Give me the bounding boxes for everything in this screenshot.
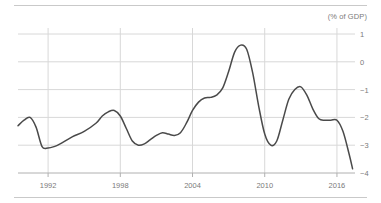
chart-figure: (% of GDP) 10−1−2−3−4 199219982004201020… bbox=[0, 0, 381, 203]
x-tick-label: 2010 bbox=[245, 181, 285, 190]
x-tick-label: 2004 bbox=[173, 181, 213, 190]
gridlines-group bbox=[18, 28, 355, 173]
x-tick-marks-group bbox=[48, 173, 337, 177]
y-tick-label: −2 bbox=[360, 113, 380, 122]
y-tick-label: −4 bbox=[360, 169, 380, 178]
x-tick-label: 1998 bbox=[100, 181, 140, 190]
x-tick-label: 1992 bbox=[28, 181, 68, 190]
y-tick-label: 1 bbox=[360, 30, 380, 39]
y-tick-label: −3 bbox=[360, 141, 380, 150]
x-tick-label: 2016 bbox=[317, 181, 357, 190]
y-tick-label: 0 bbox=[360, 57, 380, 66]
line-chart-plot bbox=[0, 0, 381, 203]
y-tick-label: −1 bbox=[360, 85, 380, 94]
data-series-line bbox=[18, 45, 353, 169]
